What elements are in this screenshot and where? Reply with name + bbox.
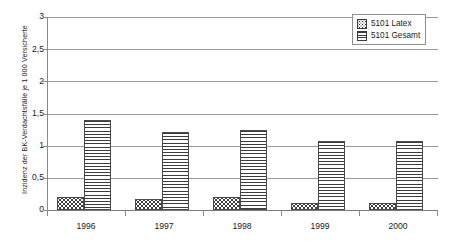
bar-gesamt-1997: [162, 132, 189, 210]
bar-latex-1999: [291, 203, 318, 210]
legend-label-latex: 5101 Latex: [371, 19, 412, 28]
bar-group: [369, 141, 423, 210]
x-axis-tick-label: 2000: [368, 221, 428, 231]
gridline: [48, 81, 438, 82]
x-axis-tick-label: 1999: [290, 221, 350, 231]
bar-latex-2000: [369, 203, 396, 210]
y-axis-tick-label: 1: [16, 141, 44, 150]
y-axis-tick-mark: [43, 17, 48, 18]
y-axis-tick-mark: [43, 49, 48, 50]
y-axis-tick-label: 0,5: [16, 173, 44, 182]
x-axis-tick-label: 1997: [134, 221, 194, 231]
bar-gesamt-2000: [396, 141, 423, 210]
bar-group: [213, 130, 267, 210]
x-axis-tick-mark: [203, 210, 204, 216]
y-axis-tick-label: 2: [16, 77, 44, 86]
y-axis-tick-label: 2,5: [16, 45, 44, 54]
legend-item-gesamt: 5101 Gesamt: [357, 30, 420, 41]
gridline: [48, 114, 438, 115]
bar-group: [135, 132, 189, 210]
y-axis-tick-label: 3: [16, 12, 44, 21]
bar-group: [291, 141, 345, 210]
bar-gesamt-1998: [240, 130, 267, 210]
y-axis-tick-labels: 00,511,522,53: [12, 0, 44, 250]
bar-gesamt-1999: [318, 141, 345, 210]
y-axis-tick-label: 0: [16, 205, 44, 214]
x-axis-line: [47, 210, 437, 211]
legend-label-gesamt: 5101 Gesamt: [371, 31, 420, 40]
x-axis-tick-mark: [359, 210, 360, 216]
x-axis-tick-label: 1998: [212, 221, 272, 231]
legend-swatch-icon-gesamt: [357, 31, 367, 41]
y-axis-tick-mark: [43, 114, 48, 115]
bar-latex-1996: [57, 197, 84, 210]
bar-latex-1998: [213, 197, 240, 211]
legend-swatch-icon-latex: [357, 19, 367, 29]
y-axis-tick-mark: [43, 81, 48, 82]
x-axis-tick-label: 1996: [56, 221, 116, 231]
bar-chart: Inzidenz der BK-Verdachtsfälle je 1 000 …: [0, 0, 449, 250]
x-axis-tick-mark: [125, 210, 126, 216]
y-axis-tick-mark: [43, 178, 48, 179]
y-axis-tick-mark: [43, 146, 48, 147]
gridline: [48, 49, 438, 50]
x-axis-tick-mark: [437, 210, 438, 216]
chart-legend: 5101 Latex 5101 Gesamt: [352, 14, 426, 45]
y-axis-tick-label: 1,5: [16, 109, 44, 118]
x-axis-tick-mark: [47, 210, 48, 216]
legend-item-latex: 5101 Latex: [357, 18, 420, 29]
bar-gesamt-1996: [84, 120, 111, 210]
x-axis-tick-mark: [281, 210, 282, 216]
bar-group: [57, 120, 111, 210]
bar-latex-1997: [135, 199, 162, 210]
